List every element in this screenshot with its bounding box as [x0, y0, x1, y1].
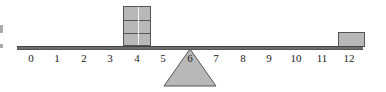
tick-label-3: 3 [100, 52, 120, 64]
tick-label-10: 10 [286, 52, 306, 64]
tick-label-4: 4 [127, 52, 147, 64]
tick-label-5: 5 [153, 52, 173, 64]
tick-label-7: 7 [206, 52, 226, 64]
tick-label-6: 6 [180, 52, 200, 64]
tick-label-1: 1 [47, 52, 67, 64]
tick-label-8: 8 [233, 52, 253, 64]
fulcrum-triangle-icon [0, 0, 386, 92]
tick-label-11: 11 [312, 52, 332, 64]
lever-diagram: 0 1 2 3 4 5 6 7 8 9 10 11 12 [0, 0, 386, 92]
tick-label-0: 0 [21, 52, 41, 64]
tick-label-2: 2 [74, 52, 94, 64]
tick-label-9: 9 [259, 52, 279, 64]
tick-label-12: 12 [339, 52, 359, 64]
